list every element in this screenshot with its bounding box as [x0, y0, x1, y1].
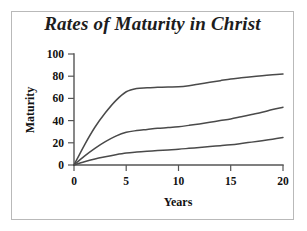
y-tick-label-0: 0: [58, 159, 64, 171]
y-axis-title: Maturity: [23, 87, 37, 134]
y-tick-label-100: 100: [47, 48, 65, 60]
chart-plot-area: 100 80 60 40 20 0 0 5 10 15 20 Maturity …: [0, 0, 307, 231]
series-line-fast-maturity: [74, 74, 283, 165]
x-tick-label-10: 10: [173, 175, 185, 187]
x-axis-title: Years: [164, 195, 193, 209]
x-tick-label-0: 0: [71, 175, 77, 187]
x-tick-label-5: 5: [123, 175, 129, 187]
y-tick-label-80: 80: [53, 70, 65, 82]
x-tick-label-15: 15: [225, 175, 237, 187]
y-axis-ticks: [68, 54, 74, 165]
chart-figure: Rates of Maturity in Christ 100 80 60 40: [0, 0, 307, 231]
y-tick-label-40: 40: [53, 115, 65, 127]
y-tick-label-20: 20: [53, 137, 65, 149]
x-axis-ticks: [74, 165, 283, 171]
y-tick-label-60: 60: [53, 92, 65, 104]
x-tick-label-20: 20: [277, 175, 289, 187]
